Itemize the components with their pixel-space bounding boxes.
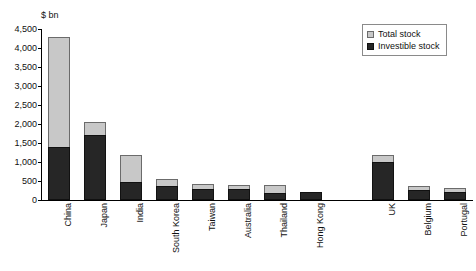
chart-legend: Total stock Investible stock [362, 24, 447, 56]
y-axis-tick-mark [38, 86, 41, 87]
legend-swatch-investible-stock-icon [367, 43, 374, 50]
bar-segment-investible-stock [192, 189, 214, 200]
bar-column [228, 29, 250, 200]
bar-column [300, 29, 322, 200]
x-axis-tick-label: Portugal [459, 203, 469, 237]
x-axis-tick-label: Taiwan [207, 203, 217, 231]
y-axis-tick-mark [38, 143, 41, 144]
bar-column [48, 29, 70, 200]
y-axis-tick-mark [38, 181, 41, 182]
x-axis-tick-label: Japan [99, 203, 109, 228]
bar-column [444, 29, 466, 200]
bar-column [192, 29, 214, 200]
bar-segment-investible-stock [120, 182, 142, 200]
x-axis-tick-label: Belgium [423, 203, 433, 236]
bar-segment-investible-stock [300, 192, 322, 200]
x-axis-tick-label: South Korea [171, 203, 181, 253]
bar-column [84, 29, 106, 200]
legend-label-total-stock: Total stock [378, 29, 421, 39]
bar-column [120, 29, 142, 200]
bar-column [264, 29, 286, 200]
bar-segment-investible-stock [444, 192, 466, 200]
x-axis-tick-label: UK [387, 203, 397, 216]
bar-segment-investible-stock [156, 186, 178, 200]
legend-label-investible-stock: Investible stock [378, 41, 440, 51]
legend-swatch-total-stock-icon [367, 31, 374, 38]
bar-segment-investible-stock [228, 189, 250, 200]
x-axis-tick-label: Hong Kong [315, 203, 325, 248]
axis-unit-label: $ bn [41, 10, 59, 20]
y-axis-tick-mark [38, 29, 41, 30]
bar-column [156, 29, 178, 200]
x-axis-tick-label: Australia [243, 203, 253, 238]
y-axis-tick-mark [38, 124, 41, 125]
bar-segment-investible-stock [84, 135, 106, 200]
x-axis-tick-label: China [63, 203, 73, 227]
bar-segment-investible-stock [372, 162, 394, 200]
bar-segment-investible-stock [408, 190, 430, 200]
y-axis-tick-mark [38, 105, 41, 106]
x-axis-tick-label: Thailand [279, 203, 289, 238]
legend-item-total-stock: Total stock [367, 28, 440, 40]
bar-segment-investible-stock [264, 193, 286, 200]
x-axis-line [41, 200, 473, 201]
bar-segment-investible-stock [48, 147, 70, 200]
y-axis-tick-mark [38, 67, 41, 68]
x-axis-tick-label: India [135, 203, 145, 223]
y-axis-tick-mark [38, 48, 41, 49]
legend-item-investible-stock: Investible stock [367, 40, 440, 52]
y-axis-tick-mark [38, 162, 41, 163]
y-axis-tick-mark [38, 200, 41, 201]
stacked-bar-chart: $ bn 05001,0001,5002,0002,5003,0003,5004… [0, 0, 476, 271]
